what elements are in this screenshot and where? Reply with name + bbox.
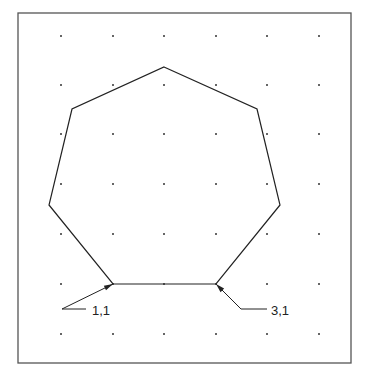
grid-dot xyxy=(60,35,62,37)
grid-dot xyxy=(60,333,62,335)
grid-dots xyxy=(60,35,320,335)
grid-dot xyxy=(60,233,62,235)
grid-dot xyxy=(215,233,217,235)
grid-dot xyxy=(266,233,268,235)
grid-dot xyxy=(215,35,217,37)
grid-dot xyxy=(163,183,165,185)
grid-dot xyxy=(112,84,114,86)
diagram-canvas: 1,13,1 xyxy=(0,0,369,379)
arrowhead-icon xyxy=(104,284,113,290)
grid-dot xyxy=(266,333,268,335)
grid-dot xyxy=(60,133,62,135)
grid-dot xyxy=(318,233,320,235)
grid-dot xyxy=(318,283,320,285)
grid-dot xyxy=(60,183,62,185)
grid-dot xyxy=(318,133,320,135)
grid-dot xyxy=(266,35,268,37)
grid-dot xyxy=(112,133,114,135)
grid-dot xyxy=(112,333,114,335)
point-labels: 1,13,1 xyxy=(62,284,289,318)
grid-dot xyxy=(318,35,320,37)
grid-dot xyxy=(60,84,62,86)
leader-line xyxy=(216,284,267,309)
heptagon-shape xyxy=(49,67,280,284)
grid-dot xyxy=(215,133,217,135)
grid-dot xyxy=(266,183,268,185)
grid-dot xyxy=(215,333,217,335)
grid-dot xyxy=(266,283,268,285)
grid-dot xyxy=(163,35,165,37)
grid-dot xyxy=(163,84,165,86)
grid-dot xyxy=(318,183,320,185)
grid-dot xyxy=(163,333,165,335)
grid-dot xyxy=(163,133,165,135)
grid-dot xyxy=(60,283,62,285)
coordinate-label: 1,1 xyxy=(92,303,110,318)
grid-dot xyxy=(318,84,320,86)
coordinate-label: 3,1 xyxy=(271,303,289,318)
grid-dot xyxy=(215,183,217,185)
grid-dot xyxy=(112,35,114,37)
grid-dot xyxy=(163,233,165,235)
grid-dot xyxy=(112,183,114,185)
grid-dot xyxy=(318,333,320,335)
diagram-frame xyxy=(18,13,351,363)
grid-dot xyxy=(266,84,268,86)
grid-dot xyxy=(112,233,114,235)
grid-dot xyxy=(266,133,268,135)
grid-dot xyxy=(215,84,217,86)
